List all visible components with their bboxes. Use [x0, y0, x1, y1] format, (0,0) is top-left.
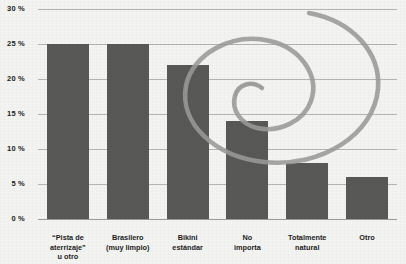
gridline-20	[38, 79, 397, 80]
x-axis-label: Otro	[337, 233, 397, 243]
x-axis-label: Brasilero (muy limpio)	[98, 233, 158, 252]
x-axis-label: Totalmente natural	[277, 233, 337, 252]
gridline-25	[38, 44, 397, 45]
x-axis-label: Bikini estándar	[158, 233, 218, 252]
bar	[167, 65, 209, 219]
y-tick-label: 30 %	[0, 4, 25, 13]
bar	[226, 121, 268, 219]
gridline-15	[38, 114, 397, 115]
plot-area: 0 %5 %10 %15 %20 %25 %30 % “Pista de ate…	[38, 9, 397, 219]
gridline-30	[38, 9, 397, 10]
x-axis-label: “Pista de aterrizaje” u otro	[38, 233, 98, 262]
bar-chart: 0 %5 %10 %15 %20 %25 %30 % “Pista de ate…	[0, 0, 406, 264]
y-tick-label: 20 %	[0, 74, 25, 83]
y-tick-label: 5 %	[0, 179, 25, 188]
bar	[346, 177, 388, 219]
bar	[286, 163, 328, 219]
bar	[47, 44, 89, 219]
y-tick-label: 15 %	[0, 109, 25, 118]
gridline-0	[38, 219, 397, 220]
bar	[107, 44, 149, 219]
y-tick-label: 0 %	[0, 214, 25, 223]
y-tick-label: 10 %	[0, 144, 25, 153]
gridline-10	[38, 149, 397, 150]
y-tick-label: 25 %	[0, 39, 25, 48]
x-axis-label: No importa	[218, 233, 278, 252]
gridline-5	[38, 184, 397, 185]
